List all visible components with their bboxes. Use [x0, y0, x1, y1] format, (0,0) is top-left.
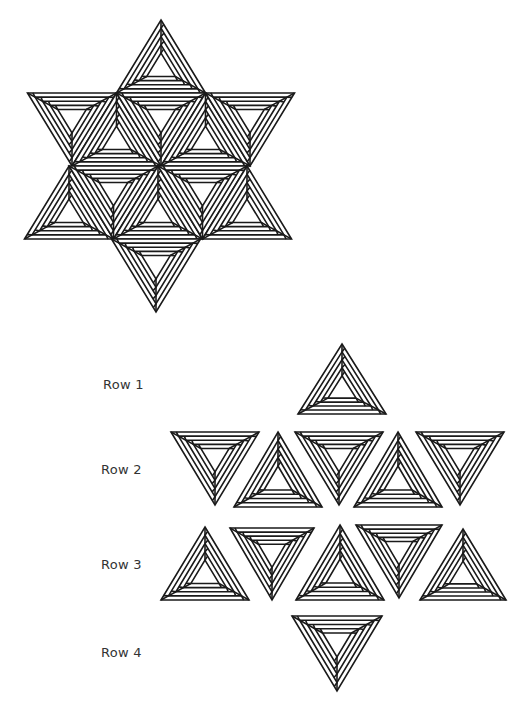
row-3-pieces — [161, 525, 506, 600]
banded-triangle-down — [292, 616, 382, 691]
row-4-pieces — [292, 616, 382, 691]
row-1-pieces — [298, 344, 386, 414]
row-1-label: Row 1 — [103, 377, 144, 392]
star-piece-down — [112, 239, 201, 312]
assembled-star-diagram — [0, 0, 527, 716]
banded-triangle-up — [298, 344, 386, 414]
row-3-label: Row 3 — [101, 557, 142, 572]
row-4-label: Row 4 — [101, 645, 142, 660]
assembled-star — [25, 20, 295, 312]
star-piece-up — [117, 20, 206, 93]
figure-canvas: Row 1 Row 2 Row 3 Row 4 — [0, 0, 527, 716]
row-2-label: Row 2 — [101, 462, 142, 477]
row-2-pieces — [171, 432, 504, 507]
